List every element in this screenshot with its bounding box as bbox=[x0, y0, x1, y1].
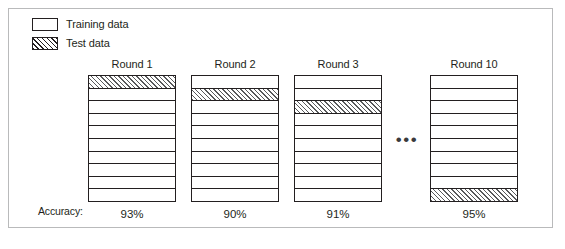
training-fold-cell bbox=[295, 89, 381, 102]
cross-validation-figure: Training data Test data Accuracy: ••• Ro… bbox=[0, 0, 565, 249]
test-fold-cell bbox=[295, 101, 381, 114]
training-fold-cell bbox=[192, 139, 278, 152]
training-fold-cell bbox=[431, 126, 517, 139]
training-fold-cell bbox=[295, 189, 381, 201]
training-fold-cell bbox=[295, 139, 381, 152]
test-fold-cell bbox=[192, 89, 278, 102]
training-fold-cell bbox=[89, 139, 175, 152]
legend-item-test-data: Test data bbox=[32, 35, 232, 52]
round-title: Round 3 bbox=[294, 58, 382, 70]
training-fold-cell bbox=[431, 89, 517, 102]
round-accuracy: 93% bbox=[88, 208, 176, 220]
training-fold-cell bbox=[295, 114, 381, 127]
training-fold-cell bbox=[89, 177, 175, 190]
training-fold-cell bbox=[295, 152, 381, 165]
training-fold-cell bbox=[295, 126, 381, 139]
training-fold-cell bbox=[192, 101, 278, 114]
fold-stack bbox=[430, 75, 518, 202]
accuracy-row-label: Accuracy: bbox=[38, 205, 83, 217]
training-fold-cell bbox=[431, 152, 517, 165]
test-fold-cell bbox=[431, 189, 517, 201]
round-title: Round 1 bbox=[88, 58, 176, 70]
training-fold-cell bbox=[431, 76, 517, 89]
rounds-ellipsis: ••• bbox=[390, 131, 424, 148]
training-fold-cell bbox=[89, 126, 175, 139]
legend: Training data Test data bbox=[32, 16, 232, 54]
training-fold-cell bbox=[295, 177, 381, 190]
training-fold-cell bbox=[431, 164, 517, 177]
training-fold-cell bbox=[89, 114, 175, 127]
training-fold-cell bbox=[89, 164, 175, 177]
training-fold-cell bbox=[192, 152, 278, 165]
test-fold-cell bbox=[89, 76, 175, 89]
training-fold-cell bbox=[431, 139, 517, 152]
training-fold-cell bbox=[431, 101, 517, 114]
fold-stack bbox=[294, 75, 382, 202]
fold-stack bbox=[191, 75, 279, 202]
round-accuracy: 91% bbox=[294, 208, 382, 220]
training-fold-cell bbox=[431, 114, 517, 127]
legend-item-training-data: Training data bbox=[32, 16, 232, 33]
training-data-swatch-icon bbox=[32, 18, 58, 31]
legend-item-label: Test data bbox=[66, 37, 110, 50]
legend-item-label: Training data bbox=[66, 18, 129, 31]
training-fold-cell bbox=[192, 114, 278, 127]
training-fold-cell bbox=[192, 177, 278, 190]
training-fold-cell bbox=[89, 152, 175, 165]
training-fold-cell bbox=[295, 164, 381, 177]
round-title: Round 10 bbox=[430, 58, 518, 70]
training-fold-cell bbox=[192, 76, 278, 89]
training-fold-cell bbox=[192, 126, 278, 139]
training-fold-cell bbox=[192, 189, 278, 201]
training-fold-cell bbox=[295, 76, 381, 89]
training-fold-cell bbox=[89, 189, 175, 201]
training-fold-cell bbox=[89, 101, 175, 114]
fold-stack bbox=[88, 75, 176, 202]
training-fold-cell bbox=[89, 89, 175, 102]
training-fold-cell bbox=[431, 177, 517, 190]
round-accuracy: 95% bbox=[430, 208, 518, 220]
test-data-swatch-icon bbox=[32, 37, 58, 50]
round-accuracy: 90% bbox=[191, 208, 279, 220]
round-title: Round 2 bbox=[191, 58, 279, 70]
training-fold-cell bbox=[192, 164, 278, 177]
